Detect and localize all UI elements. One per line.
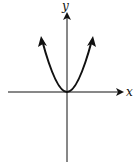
- y-axis-label: y: [61, 0, 69, 13]
- x-axis-label: x: [126, 85, 133, 99]
- graph: x y: [0, 0, 135, 166]
